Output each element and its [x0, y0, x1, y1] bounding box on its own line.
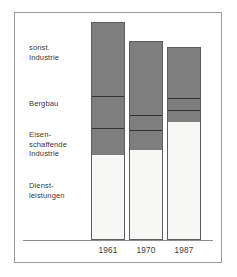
- legend-label-bergbau: Bergbau: [29, 99, 91, 109]
- chart-frame: sonst. Industrie Bergbau Eisen- schaffen…: [14, 12, 222, 263]
- x-axis-tick-1970: 1970: [129, 246, 163, 255]
- bar-1961-segment-eisenschaffende-industrie: [92, 128, 124, 155]
- bar-1970-segment-dienstleistungen: [130, 150, 162, 239]
- x-axis-tick-1987: 1987: [167, 246, 201, 255]
- bar-1987-segment-eisenschaffende-industrie: [168, 110, 200, 122]
- bar-1961-segment-dienstleistungen: [92, 155, 124, 239]
- bar-1961[interactable]: [91, 22, 125, 240]
- legend-label-sonst-industrie: sonst. Industrie: [29, 43, 91, 62]
- x-axis-baseline: [23, 240, 213, 241]
- bar-1970-segment-bergbau: [130, 115, 162, 130]
- bar-1961-segment-sonst-industrie: [92, 23, 124, 96]
- bar-1987[interactable]: [167, 47, 201, 240]
- x-axis-tick-1961: 1961: [91, 246, 125, 255]
- bar-1970-segment-sonst-industrie: [130, 42, 162, 115]
- bar-1987-segment-dienstleistungen: [168, 122, 200, 239]
- legend-label-eisenschaffende-industrie: Eisen- schaffende Industrie: [29, 130, 91, 159]
- bar-1987-segment-bergbau: [168, 98, 200, 110]
- bar-1970-segment-eisenschaffende-industrie: [130, 130, 162, 150]
- legend-label-dienstleistungen: Dienst- leistungen: [29, 181, 91, 200]
- bar-1970[interactable]: [129, 41, 163, 240]
- bar-1961-segment-bergbau: [92, 96, 124, 128]
- bar-1987-segment-sonst-industrie: [168, 48, 200, 98]
- plot-area: sonst. Industrie Bergbau Eisen- schaffen…: [15, 13, 221, 262]
